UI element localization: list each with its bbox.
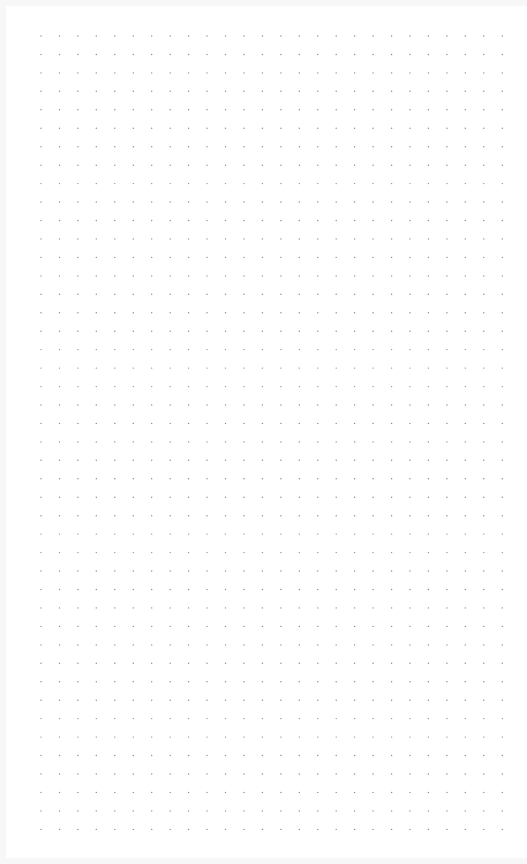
dot-grid-pattern [0,0,527,864]
